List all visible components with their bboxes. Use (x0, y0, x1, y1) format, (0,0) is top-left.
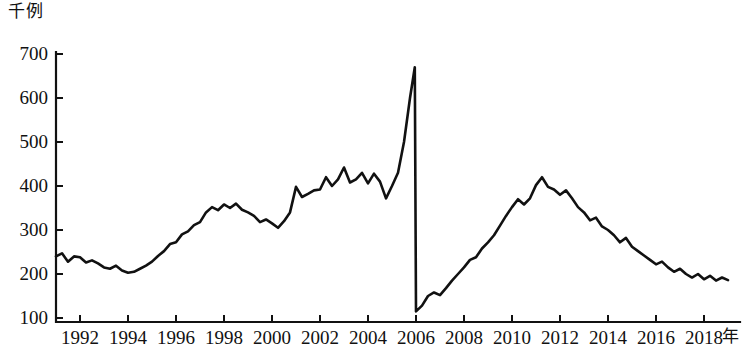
axis-tick-marks (56, 54, 704, 322)
line-chart: 千例 年 700600500400300200100 1992199419961… (0, 0, 751, 354)
axis-lines (56, 52, 740, 322)
data-series-line (56, 67, 728, 311)
plot-area (0, 0, 751, 354)
